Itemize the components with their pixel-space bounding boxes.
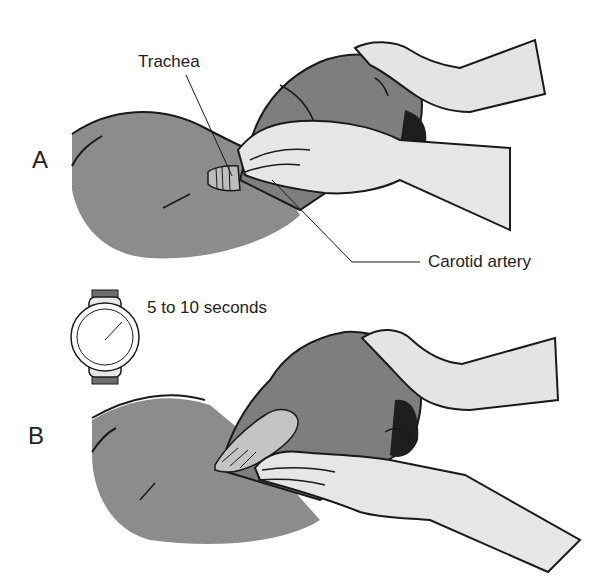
wristwatch-icon (71, 290, 139, 384)
trachea-label: Trachea (138, 52, 200, 72)
duration-label: 5 to 10 seconds (147, 298, 267, 318)
carotid-artery-label: Carotid artery (428, 252, 531, 272)
panel-a-illustration (72, 40, 545, 262)
panel-b-illustration (92, 330, 580, 572)
panel-label-a: A (32, 146, 48, 174)
trachea-a (208, 166, 240, 191)
panel-label-b: B (28, 422, 44, 450)
illustration-canvas (0, 0, 614, 581)
